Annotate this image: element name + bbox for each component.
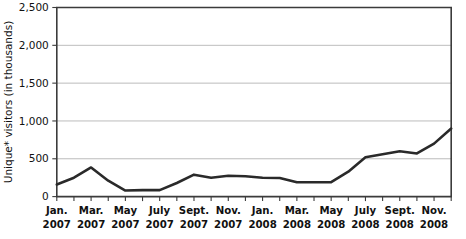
x-tick-label-year: 2008	[248, 219, 276, 230]
x-tick-label-month: Jan.	[251, 205, 274, 216]
y-tick-label: 2,500	[19, 1, 49, 13]
y-tick-labels: 05001,0001,5002,0002,500	[19, 1, 49, 202]
x-tick-label-year: 2008	[420, 219, 448, 230]
x-tick-labels: Jan.2007Mar.2007May2007July2007Sept.2007…	[43, 205, 449, 230]
chart-canvas: 05001,0001,5002,0002,500 Jan.2007Mar.200…	[0, 0, 466, 239]
x-tick-label-month: Nov.	[216, 205, 241, 216]
x-tick-label-year: 2008	[283, 219, 311, 230]
x-tick-label-year: 2008	[317, 219, 345, 230]
x-tick-label-month: May	[114, 205, 138, 216]
y-tick-label: 0	[42, 190, 49, 202]
x-tick-label-year: 2007	[146, 219, 174, 230]
x-tick-label-year: 2007	[214, 219, 242, 230]
x-tick-label-year: 2008	[386, 219, 414, 230]
y-tick-label: 2,000	[19, 39, 49, 51]
x-tick-label-year: 2007	[77, 219, 105, 230]
x-tick-label-month: July	[354, 205, 377, 216]
x-tick-label-month: Mar.	[285, 205, 309, 216]
x-tick-label-month: Jan.	[45, 205, 68, 216]
x-tick-label-month: Sept.	[179, 205, 209, 216]
x-tick-label-month: Nov.	[421, 205, 446, 216]
x-tick-label-year: 2007	[43, 219, 71, 230]
data-series-line	[57, 129, 451, 191]
x-tick-label-month: Sept.	[385, 205, 415, 216]
x-tick-label-month: May	[319, 205, 343, 216]
gridlines	[57, 8, 451, 159]
line-chart: 05001,0001,5002,0002,500 Jan.2007Mar.200…	[0, 0, 466, 239]
y-axis-label: Unique* visitors (in thousands)	[2, 21, 14, 183]
y-tick-label: 500	[29, 152, 49, 164]
y-tick-label: 1,000	[19, 115, 49, 127]
x-tick-label-month: July	[148, 205, 171, 216]
x-tick-label-month: Mar.	[79, 205, 103, 216]
x-tick-label-year: 2007	[111, 219, 139, 230]
y-tick-label: 1,500	[19, 77, 49, 89]
x-tick-label-year: 2007	[180, 219, 208, 230]
x-tick-label-year: 2008	[351, 219, 379, 230]
